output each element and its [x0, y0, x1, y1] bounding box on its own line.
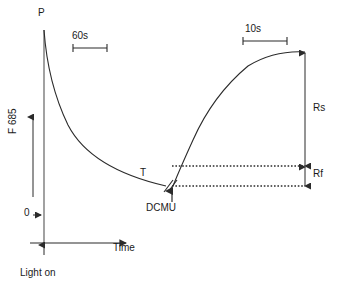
scalebar-10s — [243, 37, 287, 45]
y-axis-label: F 685 — [8, 108, 18, 134]
plot-canvas — [0, 0, 339, 298]
trough-label: T — [140, 168, 146, 178]
scalebar-10s-label: 10s — [245, 24, 261, 34]
zero-label: 0 — [24, 208, 30, 218]
peak-label: P — [38, 8, 45, 18]
rf-label: Rf — [313, 169, 323, 179]
dcmu-label: DCMU — [146, 203, 176, 213]
rs-label: Rs — [313, 103, 325, 113]
scalebar-60s-label: 60s — [72, 31, 88, 41]
x-axis-label: Time — [113, 243, 135, 253]
scalebar-60s — [73, 44, 107, 52]
fluorescence-induction-figure: P 60s 10s T DCMU Rs Rf 0 Time Light on F… — [0, 0, 339, 298]
light-on-label: Light on — [20, 268, 56, 278]
fluorescence-decay-curve — [44, 30, 166, 186]
